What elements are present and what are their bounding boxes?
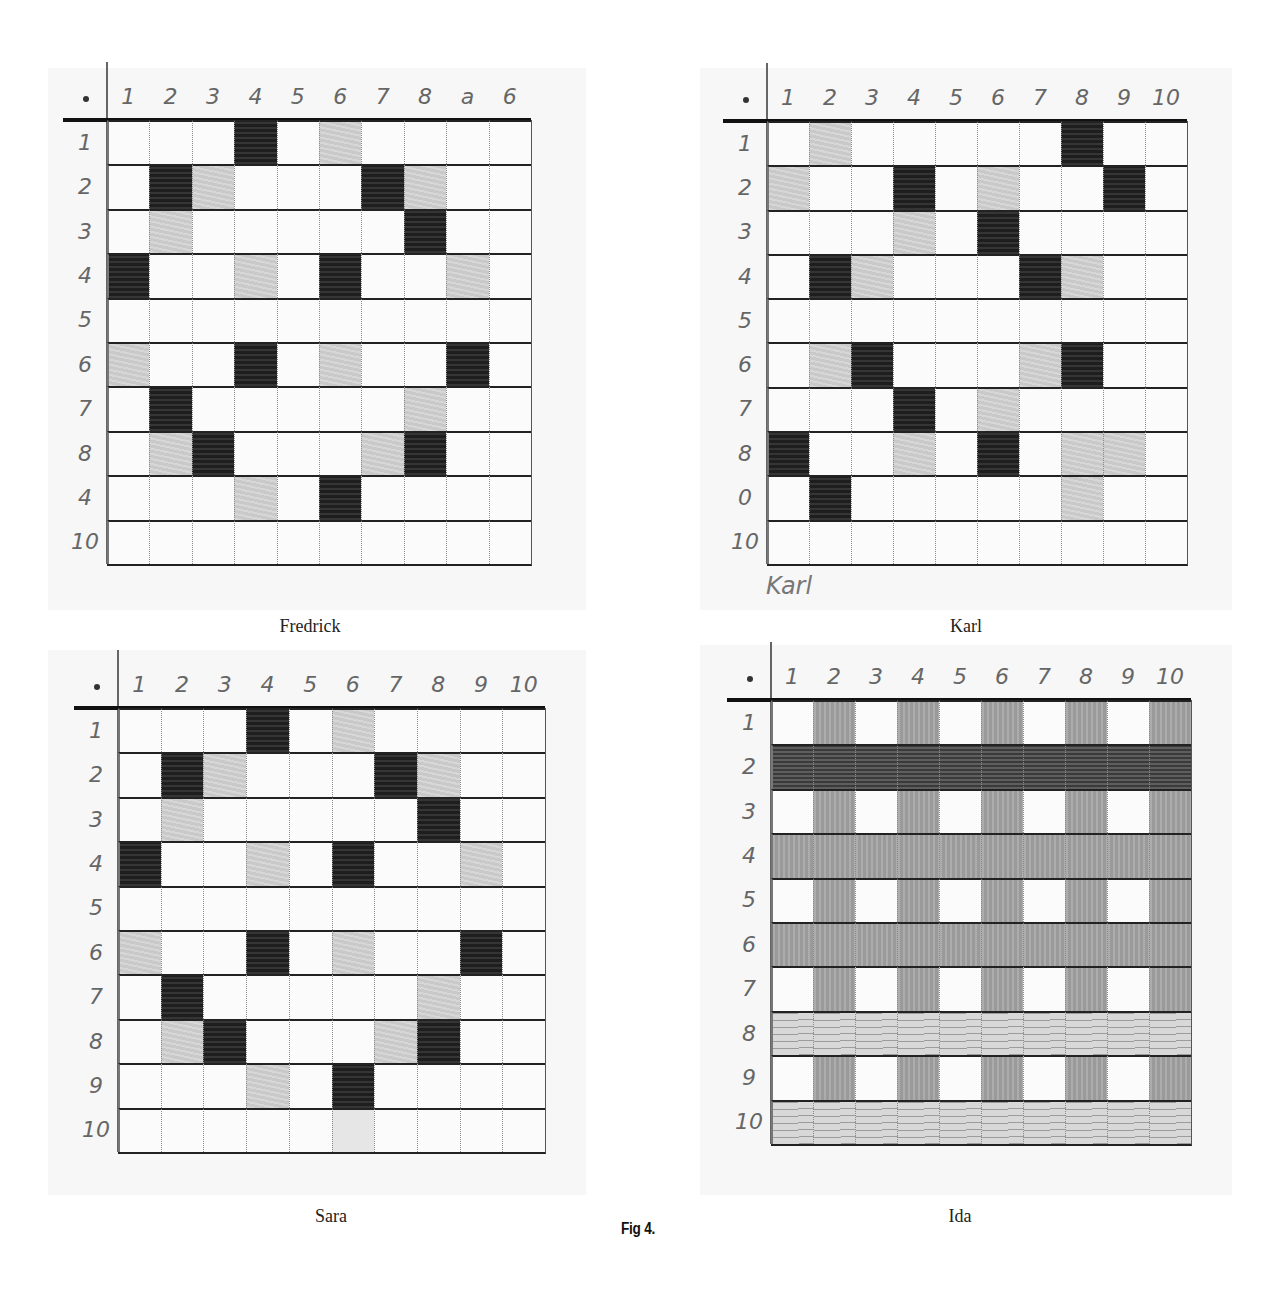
grid-cell [939, 789, 981, 833]
grid-cell [1023, 1011, 1065, 1055]
grid-cell [460, 974, 503, 1018]
row-label: 10 [727, 520, 763, 564]
grid-cell [277, 298, 319, 342]
column-labels: 12345678910 [118, 666, 545, 702]
grid-cell [203, 974, 246, 1018]
grid-cell [813, 789, 855, 833]
grid-cell [935, 165, 977, 209]
grid-cell [203, 752, 246, 796]
grid-cell [767, 475, 809, 519]
grid-cell [855, 966, 897, 1010]
grid-cell [417, 1108, 460, 1152]
grid-cell [502, 974, 545, 1018]
column-labels: 12345678910 [771, 658, 1191, 694]
grid-cell [149, 431, 191, 475]
grid-cell [118, 1019, 161, 1063]
column-label: 6 [981, 658, 1023, 694]
grid-cell [319, 342, 361, 386]
grid-cell [192, 209, 234, 253]
grid-cell [851, 342, 893, 386]
grid-cell [192, 253, 234, 297]
row-labels: 12345678910 [731, 700, 767, 1144]
grid-cell [1023, 744, 1065, 788]
row-label: 10 [731, 1100, 767, 1144]
grid-cell [855, 789, 897, 833]
grid-cell [417, 708, 460, 752]
grid-cell [192, 520, 234, 564]
grid-cell [277, 120, 319, 164]
grid-cell [489, 253, 531, 297]
column-label: 9 [1107, 658, 1149, 694]
grid-cell [1019, 342, 1061, 386]
grid-cell [981, 789, 1023, 833]
row-label: 7 [727, 387, 763, 431]
grid-cell [161, 708, 204, 752]
grid-cell [374, 797, 417, 841]
grid-cell [319, 520, 361, 564]
grid-cell [809, 342, 851, 386]
handwritten-name-karl: Karl [766, 572, 812, 600]
grid-cell [404, 120, 446, 164]
grid-cell [1065, 744, 1107, 788]
column-label: 2 [149, 78, 191, 114]
grid-cell [1019, 298, 1061, 342]
grid-cell [107, 253, 149, 297]
grid-cell [234, 475, 276, 519]
caption-sara: Sara [276, 1206, 386, 1227]
grid-cell [1023, 700, 1065, 744]
grid-cell [977, 165, 1019, 209]
grid-cell [1145, 431, 1187, 475]
column-label: 6 [319, 78, 361, 114]
grid-cell [332, 1108, 375, 1152]
grid-cell [1145, 254, 1187, 298]
grid-cell [893, 387, 935, 431]
grid-cell [1061, 298, 1103, 342]
grid-cell [771, 878, 813, 922]
grid-cell [118, 841, 161, 885]
grid-cell [289, 1019, 332, 1063]
grid-cell [332, 974, 375, 1018]
row-label: 9 [731, 1055, 767, 1099]
grid-cell [897, 789, 939, 833]
grid-cell [502, 1019, 545, 1063]
grid-cell [851, 210, 893, 254]
grid-cell [897, 966, 939, 1010]
grid-cell [939, 922, 981, 966]
grid-cell [813, 878, 855, 922]
grid-cell [1103, 387, 1145, 431]
grid-cell [319, 298, 361, 342]
grid-cell [771, 789, 813, 833]
grid-cell [446, 386, 488, 430]
grid-cell [897, 833, 939, 877]
row-label: 1 [67, 120, 103, 164]
grid-cell [118, 930, 161, 974]
grid-cell [404, 431, 446, 475]
column-label: 9 [1103, 79, 1145, 115]
grid-cell [234, 209, 276, 253]
grid-cell [192, 342, 234, 386]
grid-cell [935, 342, 977, 386]
grid-cell [374, 752, 417, 796]
grid-cell [981, 700, 1023, 744]
grid-cell [1019, 210, 1061, 254]
grid-cell [192, 475, 234, 519]
column-label: 4 [246, 666, 289, 702]
grid-cell [361, 253, 403, 297]
grid-cell [851, 431, 893, 475]
row-label: 3 [67, 209, 103, 253]
grid-cell [404, 475, 446, 519]
grid-cell [897, 744, 939, 788]
grid-cell [203, 1019, 246, 1063]
grid-cell [851, 475, 893, 519]
column-label: 1 [107, 78, 149, 114]
grid-cell [446, 164, 488, 208]
grid-cell [1145, 121, 1187, 165]
grid-cell [161, 886, 204, 930]
grid-cell [246, 708, 289, 752]
row-label: 10 [78, 1108, 114, 1152]
column-label: 4 [234, 78, 276, 114]
column-label: 6 [332, 666, 375, 702]
grid-cell [489, 298, 531, 342]
grid-cell [319, 209, 361, 253]
grid-cell [446, 431, 488, 475]
